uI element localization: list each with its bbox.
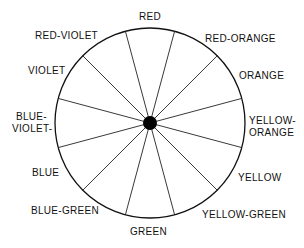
label-blue-violet-line1: BLUE- xyxy=(16,111,47,122)
label-green: GREEN xyxy=(130,226,167,237)
spoke-line xyxy=(150,123,175,215)
label-yellow-orange-line1: YELLOW- xyxy=(249,115,296,126)
label-orange: ORANGE xyxy=(239,70,284,81)
label-blue-violet-line2: VIOLET- xyxy=(12,123,52,134)
label-red-violet: RED-VIOLET xyxy=(35,30,98,41)
center-hub xyxy=(143,116,157,130)
label-blue-green: BLUE-GREEN xyxy=(31,205,99,216)
spoke-line xyxy=(125,123,150,215)
label-violet: VIOLET xyxy=(28,65,65,76)
spoke-line xyxy=(58,98,150,123)
label-yellow-green: YELLOW-GREEN xyxy=(202,209,286,220)
label-red-orange: RED-ORANGE xyxy=(205,33,276,44)
spoke-line xyxy=(83,56,150,123)
spoke-line xyxy=(150,123,217,190)
spoke-line xyxy=(125,31,150,123)
spoke-line xyxy=(150,56,217,123)
spoke-line xyxy=(58,123,150,148)
label-blue: BLUE xyxy=(32,167,59,178)
label-yellow-orange-line2: ORANGE xyxy=(249,127,294,138)
spoke-line xyxy=(83,123,150,190)
spoke-line xyxy=(150,98,242,123)
spoke-line xyxy=(150,31,175,123)
spoke-line xyxy=(150,123,242,148)
label-yellow: YELLOW xyxy=(238,172,281,183)
label-red: RED xyxy=(139,11,161,22)
